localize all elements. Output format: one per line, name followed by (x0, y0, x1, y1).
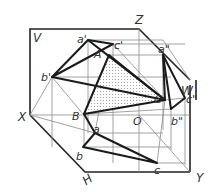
point-label-a-prime: a' (77, 33, 87, 46)
axis-label-y: Y (196, 171, 205, 185)
point-label-c-prime: c' (114, 39, 123, 52)
point-label-B: B (72, 110, 80, 123)
axis-label-z: Z (134, 13, 144, 27)
point-label-b-prime: b' (41, 71, 51, 84)
projection-diagram: V H W X Y Z O A B C a' b' c' a b c a" b"… (0, 0, 218, 192)
point-label-b-double-prime: b" (171, 115, 183, 128)
origin-label: O (133, 115, 142, 128)
triangle-ABC (84, 55, 165, 114)
top-projection-triangle (83, 133, 157, 163)
point-label-a: a (93, 123, 100, 136)
point-label-b: b (76, 150, 83, 163)
axis-label-x: X (17, 110, 27, 124)
point-label-a-double-prime: a" (158, 43, 170, 56)
point-label-c: c (154, 164, 160, 177)
point-label-C: C (154, 93, 162, 106)
plane-label-h: H (80, 171, 95, 188)
point-label-A: A (93, 48, 102, 61)
plane-label-v: V (33, 31, 42, 45)
point-label-c-double-prime: c" (186, 93, 197, 106)
